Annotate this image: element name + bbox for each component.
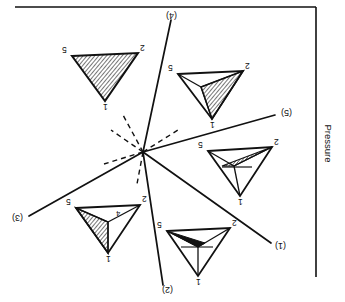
triangle-top-left <box>72 53 138 101</box>
phase-diagram-svg <box>0 0 345 302</box>
dashed-line-3 <box>137 152 143 184</box>
triangle-bottom-left <box>76 205 140 253</box>
tri2-label-2: 2 <box>245 61 250 71</box>
line-2 <box>143 152 163 285</box>
dashed-line-4 <box>143 130 178 152</box>
tri5-label-1: 1 <box>106 254 111 264</box>
tri5-label-4-inner: 4 <box>116 209 120 218</box>
dashed-extensions <box>104 115 178 184</box>
tri1-label-1: 1 <box>103 102 108 112</box>
triangle-bottom-right <box>167 228 230 276</box>
line-4 <box>143 20 171 152</box>
tri1-label-2: 2 <box>140 43 145 53</box>
tri4-label-1: 1 <box>196 277 201 287</box>
tri4-label-2: 2 <box>232 218 237 228</box>
line-label-5: (5) <box>281 108 292 118</box>
tri3-label-2: 2 <box>274 137 279 147</box>
line-label-2: (2) <box>162 285 173 295</box>
tri4-label-5: 5 <box>157 220 162 230</box>
figure-canvas: (1) (2) (3) (4) (5) 5 2 1 5 2 1 5 2 1 5 … <box>0 0 345 302</box>
triangle-mid-right <box>208 147 272 196</box>
tri3-label-5: 5 <box>198 140 203 150</box>
line-label-3: (3) <box>12 213 23 223</box>
pressure-axis-label: Pressure <box>323 121 334 167</box>
line-label-1: (1) <box>275 241 286 251</box>
dashed-line-5 <box>111 130 143 152</box>
tri5-label-2: 2 <box>142 194 147 204</box>
tri2-label-5: 5 <box>168 63 173 73</box>
tri3-label-1: 1 <box>238 197 243 207</box>
tri2-label-1: 1 <box>210 120 215 130</box>
tri5-label-5: 5 <box>66 197 71 207</box>
dashed-line-2 <box>123 115 143 152</box>
tri1-label-5: 5 <box>62 45 67 55</box>
triangle-top-right <box>178 71 243 119</box>
line-label-4: (4) <box>166 11 177 21</box>
